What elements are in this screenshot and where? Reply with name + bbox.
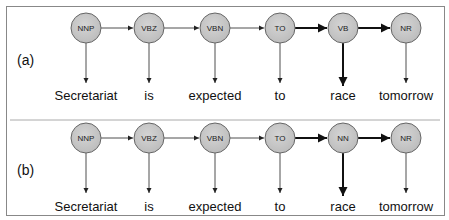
panel-label: (b) [17, 162, 34, 178]
hmm-diagram: (a) NNP VBZ VBN TO VB NR Secretariat is … [0, 0, 449, 220]
svg-text:NR: NR [400, 134, 412, 143]
panel-b: (b) NNP VBZ VBN TO NN NR Secretariat is … [17, 123, 434, 214]
observed-word: Secretariat [55, 199, 118, 214]
panel-label: (a) [17, 52, 34, 68]
state-node: NR [391, 13, 421, 43]
state-node: NNP [71, 123, 101, 153]
state-node: NR [391, 123, 421, 153]
svg-text:TO: TO [275, 134, 286, 143]
observed-word: is [144, 88, 154, 103]
state-node: TO [265, 13, 295, 43]
observed-word: expected [189, 199, 242, 214]
svg-text:VBN: VBN [207, 134, 224, 143]
state-node: NN [328, 123, 358, 153]
svg-text:VBN: VBN [207, 24, 224, 33]
state-node: VBZ [134, 123, 164, 153]
svg-text:VBZ: VBZ [141, 134, 157, 143]
svg-text:NNP: NNP [78, 24, 95, 33]
observed-word: to [275, 88, 286, 103]
observed-word: expected [189, 88, 242, 103]
state-node: VB [328, 13, 358, 43]
svg-text:VB: VB [338, 24, 349, 33]
observed-word: race [330, 88, 355, 103]
state-node: VBN [200, 13, 230, 43]
observed-word: Secretariat [55, 88, 118, 103]
state-node: VBN [200, 123, 230, 153]
observed-word: tomorrow [379, 199, 434, 214]
state-node: VBZ [134, 13, 164, 43]
observed-word: to [275, 199, 286, 214]
observed-word: tomorrow [379, 88, 434, 103]
panel-a: (a) NNP VBZ VBN TO VB NR Secretariat is … [17, 13, 434, 103]
svg-text:NR: NR [400, 24, 412, 33]
state-node: TO [265, 123, 295, 153]
observed-word: race [330, 199, 355, 214]
svg-text:VBZ: VBZ [141, 24, 157, 33]
svg-text:NN: NN [337, 134, 349, 143]
observed-word: is [144, 199, 154, 214]
state-node: NNP [71, 13, 101, 43]
svg-text:NNP: NNP [78, 134, 95, 143]
svg-text:TO: TO [275, 24, 286, 33]
